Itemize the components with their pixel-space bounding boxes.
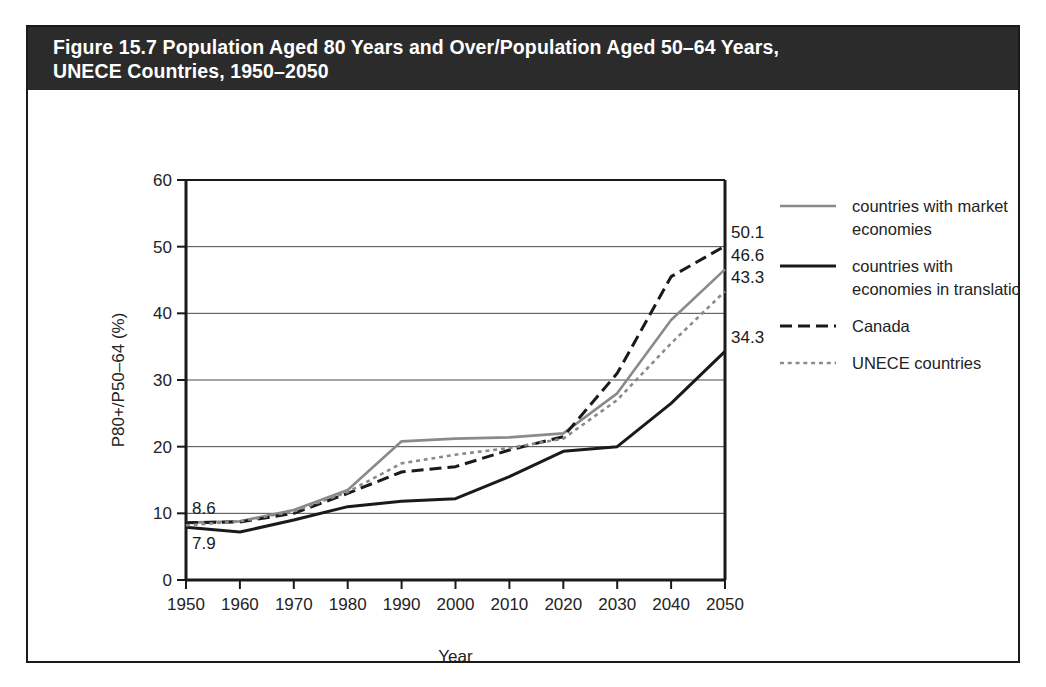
x-tick-label: 1980 — [329, 595, 367, 614]
legend-label: Canada — [852, 317, 911, 335]
chart-legend: countries with marketeconomiescountries … — [780, 197, 1018, 372]
x-axis-title: Year — [438, 647, 473, 661]
x-axis-ticks: 1950196019701980199020002010202020302040… — [167, 580, 744, 614]
x-tick-label: 2020 — [544, 595, 582, 614]
data-point-label: 8.6 — [192, 499, 216, 518]
figure-title-bar: Figure 15.7 Population Aged 80 Years and… — [28, 27, 1018, 90]
x-tick-label: 1950 — [167, 595, 205, 614]
x-tick-label: 2040 — [652, 595, 690, 614]
chart-area: 0102030405060 19501960197019801990200020… — [28, 90, 1018, 661]
figure-title: Figure 15.7 Population Aged 80 Years and… — [53, 35, 953, 83]
x-tick-label: 1960 — [221, 595, 259, 614]
x-tick-label: 1990 — [383, 595, 421, 614]
y-tick-label: 0 — [163, 571, 172, 590]
data-point-label: 7.9 — [192, 534, 216, 553]
y-tick-label: 10 — [153, 504, 172, 523]
y-axis-title: P80+/P50–64 (%) — [109, 313, 128, 448]
x-tick-label: 2010 — [490, 595, 528, 614]
legend-label: economies in translation — [852, 280, 1018, 298]
series-line — [186, 246, 725, 523]
figure-container: Figure 15.7 Population Aged 80 Years and… — [26, 25, 1020, 663]
y-tick-label: 20 — [153, 438, 172, 457]
data-point-label: 34.3 — [731, 328, 764, 347]
y-tick-label: 50 — [153, 238, 172, 257]
y-tick-label: 30 — [153, 371, 172, 390]
legend-label: countries with market — [852, 197, 1008, 215]
x-tick-label: 2050 — [706, 595, 744, 614]
y-tick-label: 40 — [153, 304, 172, 323]
series-line — [186, 269, 725, 522]
x-tick-label: 2030 — [598, 595, 636, 614]
data-point-labels: 8.67.950.146.643.334.3 — [192, 223, 764, 553]
gridlines — [186, 247, 725, 514]
legend-label: countries with — [852, 257, 953, 275]
y-tick-label: 60 — [153, 171, 172, 190]
legend-label: economies — [852, 220, 932, 238]
x-tick-label: 2000 — [437, 595, 475, 614]
data-point-label: 50.1 — [731, 223, 764, 242]
data-point-label: 43.3 — [731, 268, 764, 287]
line-chart: 0102030405060 19501960197019801990200020… — [28, 90, 1018, 661]
series-line — [186, 351, 725, 532]
x-tick-label: 1970 — [275, 595, 313, 614]
data-point-label: 46.6 — [731, 246, 764, 265]
legend-label: UNECE countries — [852, 354, 981, 372]
y-axis-ticks: 0102030405060 — [153, 171, 186, 590]
data-series-group — [186, 246, 725, 532]
